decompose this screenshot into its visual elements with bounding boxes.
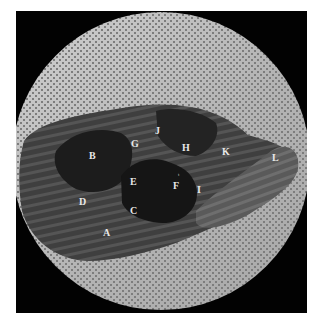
label-c: C: [130, 206, 137, 216]
label-l: L: [272, 153, 279, 163]
small-mark: t: [178, 172, 179, 177]
label-g: G: [131, 139, 139, 149]
label-j: J: [155, 126, 160, 136]
specimen: [16, 11, 307, 313]
label-a: A: [103, 228, 110, 238]
label-h: H: [182, 143, 190, 153]
label-k: K: [222, 147, 230, 157]
label-b: B: [89, 151, 96, 161]
label-d: D: [79, 197, 86, 207]
label-e: E: [130, 177, 137, 187]
label-i: I: [197, 185, 201, 195]
label-f: F: [173, 181, 179, 191]
image-frame: A B C D E F G H I J K L t: [16, 11, 307, 313]
